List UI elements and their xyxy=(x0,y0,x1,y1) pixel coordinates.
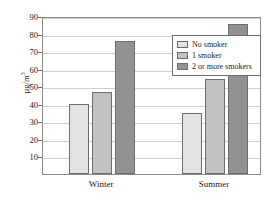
legend: No smoker1 smoker2 or more smokers xyxy=(172,35,261,76)
y-axis-title: µg/m3 xyxy=(19,53,31,113)
y-axis-tick-label: 90 xyxy=(12,13,38,22)
gridline xyxy=(43,18,260,19)
bar xyxy=(115,41,135,174)
legend-label: 2 or more smokers xyxy=(192,63,252,71)
bar xyxy=(182,113,202,174)
legend-swatch xyxy=(177,41,188,48)
y-axis-title-text: µg/m xyxy=(21,75,31,93)
y-axis-tick-label: 20 xyxy=(12,136,38,145)
legend-item: No smoker xyxy=(177,39,256,50)
bar xyxy=(69,104,89,174)
x-axis-category-label: Winter xyxy=(61,180,141,189)
y-axis-tick-label: 80 xyxy=(12,30,38,39)
bar xyxy=(92,92,112,175)
bar-chart: 102030405060708090 µg/m3 No smoker1 smok… xyxy=(0,0,273,205)
legend-item: 2 or more smokers xyxy=(177,61,256,72)
legend-swatch xyxy=(177,52,188,59)
y-axis-title-exponent: 3 xyxy=(19,72,26,75)
bar xyxy=(205,79,225,174)
y-axis-tick-label: 10 xyxy=(12,153,38,162)
legend-label: 1 smoker xyxy=(192,52,222,60)
legend-label: No smoker xyxy=(192,41,227,49)
x-axis-category-label: Summer xyxy=(174,180,254,189)
legend-swatch xyxy=(177,63,188,70)
legend-item: 1 smoker xyxy=(177,50,256,61)
y-axis-tick-label: 30 xyxy=(12,118,38,127)
plot-area: No smoker1 smoker2 or more smokers xyxy=(42,17,261,175)
